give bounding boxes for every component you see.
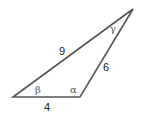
angle-label-gamma: γ [110, 23, 116, 34]
side-label-6: 6 [103, 61, 109, 73]
triangle-diagram: 9 6 4 β α γ [0, 0, 142, 114]
side-label-4: 4 [44, 101, 50, 113]
side-label-9: 9 [59, 45, 65, 57]
angle-label-alpha: α [70, 84, 77, 95]
angle-label-beta: β [35, 84, 41, 95]
